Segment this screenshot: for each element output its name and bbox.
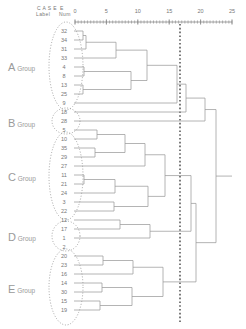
group-word: Group — [16, 235, 36, 242]
case-number-label: 20 — [61, 253, 67, 259]
case-number-label: 14 — [61, 280, 67, 286]
group-word: Group — [15, 121, 35, 128]
group-letter: D — [8, 231, 16, 243]
axis-tick-label: 0 — [73, 8, 76, 14]
case-number-label: 31 — [61, 46, 67, 52]
axis-tick-label: 10 — [135, 8, 141, 14]
group-label-D: D Group — [8, 227, 36, 245]
case-number-label: 4 — [62, 64, 65, 70]
case-number-label: 21 — [61, 181, 67, 187]
case-number-label: 17 — [61, 226, 67, 232]
case-number-label: 24 — [61, 190, 67, 196]
axis-tick-label: 20 — [198, 8, 204, 14]
case-number-label: 28 — [61, 118, 67, 124]
case-number-label: 15 — [61, 298, 67, 304]
case-number-label: 5 — [62, 127, 65, 133]
case-number-label: 11 — [61, 172, 67, 178]
group-word: Group — [15, 287, 35, 294]
case-number-label: 29 — [61, 154, 67, 160]
dendrogram-figure: C A S E Label E Num 0510152025 323431334… — [0, 0, 246, 329]
group-letter: C — [8, 171, 16, 183]
case-number-label: 19 — [61, 307, 67, 313]
x-axis — [75, 19, 232, 24]
axis-tick-label: 5 — [105, 8, 108, 14]
case-number-label: 12 — [61, 217, 67, 223]
case-number-label: 13 — [61, 82, 67, 88]
case-number-label: 35 — [61, 145, 67, 151]
case-number-label: 22 — [61, 208, 67, 214]
group-word: Group — [16, 175, 36, 182]
case-number-label: 10 — [61, 136, 67, 142]
group-ellipse-E — [49, 249, 83, 325]
axis-tick-label: 25 — [229, 8, 235, 14]
case-number-label: 34 — [61, 37, 67, 43]
case-number-label: 27 — [61, 163, 67, 169]
case-number-label: 25 — [61, 91, 67, 97]
case-number-label: 8 — [62, 73, 65, 79]
group-word: Group — [15, 65, 35, 72]
group-label-E: E Group — [8, 279, 35, 297]
case-number-label: 33 — [61, 55, 67, 61]
group-label-C: C Group — [8, 167, 36, 185]
case-number-label: 23 — [61, 262, 67, 268]
case-number-label: 16 — [61, 271, 67, 277]
case-number-label: 2 — [62, 244, 65, 250]
group-label-A: A Group — [8, 57, 35, 75]
group-label-B: B Group — [8, 113, 35, 131]
case-number-label: 1 — [62, 235, 65, 241]
case-number-label: 32 — [61, 28, 67, 34]
case-number-label: 18 — [61, 109, 67, 115]
case-number-label: 30 — [61, 289, 67, 295]
axis-tick-label: 15 — [166, 8, 172, 14]
dendrogram-links — [74, 31, 232, 310]
case-number-label: 9 — [62, 100, 65, 106]
dendrogram-canvas — [0, 0, 246, 329]
case-number-label: 3 — [62, 199, 65, 205]
